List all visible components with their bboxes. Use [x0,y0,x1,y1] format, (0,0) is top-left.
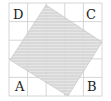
label-a: A [14,79,25,94]
label-c: C [86,7,96,22]
grid-diagram: D C A B [0,0,111,101]
label-b: B [87,79,97,94]
label-d: D [13,7,23,22]
